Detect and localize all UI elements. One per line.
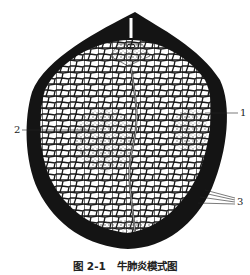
consolidation-area-left — [75, 108, 135, 172]
lung-lobule-diagram — [0, 0, 250, 250]
consolidation-area-right — [172, 108, 208, 152]
label-1: 1 — [240, 108, 246, 118]
label-3: 3 — [237, 197, 243, 207]
label-2: 2 — [14, 125, 20, 135]
figure-caption: 图 2-1 牛肺炎模式图 — [0, 258, 250, 273]
